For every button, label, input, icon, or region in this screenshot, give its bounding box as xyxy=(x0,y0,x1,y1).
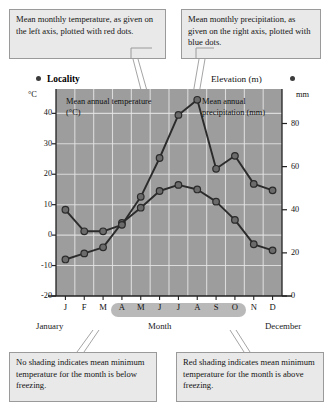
left-axis-tick-20: 20 xyxy=(22,169,52,178)
month-tick-november: N xyxy=(248,302,260,312)
month-tick-may: M xyxy=(135,302,147,312)
climate-graph-figure: Mean monthly temperature, as given on th… xyxy=(0,0,330,412)
month-tick-february: F xyxy=(78,302,90,312)
month-tick-october: O xyxy=(229,302,241,312)
plot-area xyxy=(56,89,282,296)
left-axis-unit: °C xyxy=(28,90,37,99)
left-axis-tick--10: -10 xyxy=(22,261,52,270)
series-label-temperature: Mean annual temperature (°C) xyxy=(66,97,152,118)
left-axis-tick--20: -20 xyxy=(22,291,52,300)
month-tick-september: S xyxy=(210,302,222,312)
blue-dot-icon xyxy=(290,76,295,81)
callout-precipitation: Mean monthly precipitation, as given on … xyxy=(181,9,321,59)
locality-label: Locality xyxy=(47,74,80,84)
month-tick-january: J xyxy=(59,302,71,312)
red-dot-icon xyxy=(36,76,41,81)
axis-caption-december: December xyxy=(265,321,301,331)
axis-caption-january: January xyxy=(36,321,63,331)
month-tick-june: J xyxy=(154,302,166,312)
elevation-label: Elevation (m) xyxy=(211,74,262,84)
month-tick-july: J xyxy=(172,302,184,312)
series-label-precipitation: Mean annual precipitation (mm) xyxy=(202,97,274,118)
axis-caption-month: Month xyxy=(148,321,171,331)
callout-temperature: Mean monthly temperature, as given on th… xyxy=(9,9,166,59)
right-axis-tick-40: 40 xyxy=(291,205,299,214)
right-axis-unit: mm xyxy=(296,90,309,99)
left-axis-tick-0: 0 xyxy=(22,230,52,239)
left-axis-tick-10: 10 xyxy=(22,200,52,209)
month-tick-march: M xyxy=(97,302,109,312)
month-tick-august: A xyxy=(191,302,203,312)
left-axis-tick-30: 30 xyxy=(22,139,52,148)
right-axis-tick-60: 60 xyxy=(291,162,299,171)
callout-no-shading: No shading indicates mean minimum temper… xyxy=(9,352,157,402)
month-tick-april: A xyxy=(116,302,128,312)
right-axis-tick-20: 20 xyxy=(291,248,299,257)
callout-red-shading: Red shading indicates mean minimum tempe… xyxy=(176,352,324,402)
month-tick-december: D xyxy=(267,302,279,312)
right-axis-tick-80: 80 xyxy=(291,119,299,128)
left-axis-tick-40: 40 xyxy=(22,108,52,117)
right-axis-tick-0: 0 xyxy=(291,291,295,300)
climate-plot xyxy=(56,89,282,296)
